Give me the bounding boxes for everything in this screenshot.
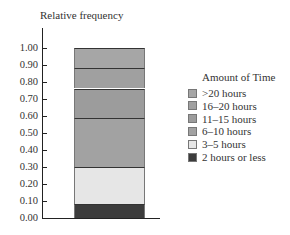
y-tick-mark bbox=[42, 48, 47, 49]
y-tick-mark bbox=[42, 133, 47, 134]
legend-item: 11–15 hours bbox=[188, 113, 256, 125]
legend-swatch-icon bbox=[188, 114, 197, 123]
y-axis-line bbox=[42, 28, 43, 219]
y-tick-label: 0.50 bbox=[2, 127, 38, 139]
legend-swatch-icon bbox=[188, 127, 197, 136]
legend-item: 6–10 hours bbox=[188, 125, 251, 137]
y-tick-mark bbox=[42, 82, 47, 83]
y-tick-label: 1.00 bbox=[2, 42, 38, 54]
y-tick-label: 0.80 bbox=[2, 76, 38, 88]
legend-swatch-icon bbox=[188, 89, 197, 98]
y-tick-label: 0.20 bbox=[2, 178, 38, 190]
y-tick-label: 0.60 bbox=[2, 110, 38, 122]
legend-label: >20 hours bbox=[202, 87, 246, 99]
legend-swatch-icon bbox=[188, 101, 197, 110]
legend-item: 2 hours or less bbox=[188, 151, 266, 163]
legend-item: 16–20 hours bbox=[188, 100, 257, 112]
legend-label: 16–20 hours bbox=[202, 100, 257, 112]
bar-segment bbox=[74, 167, 145, 204]
y-tick-mark bbox=[42, 116, 47, 117]
y-tick-label: 0.30 bbox=[2, 161, 38, 173]
y-tick-label: 0.10 bbox=[2, 195, 38, 207]
y-tick-mark bbox=[42, 65, 47, 66]
bar-segment bbox=[74, 118, 145, 167]
legend-label: 6–10 hours bbox=[202, 125, 251, 137]
stacked-bar bbox=[74, 48, 145, 218]
legend-swatch-icon bbox=[188, 153, 197, 162]
y-tick-mark bbox=[42, 99, 47, 100]
y-tick-label: 0.70 bbox=[2, 93, 38, 105]
y-tick-label: 0.90 bbox=[2, 59, 38, 71]
bar-segment bbox=[74, 48, 145, 68]
y-tick-mark bbox=[42, 218, 47, 219]
bar-segment bbox=[74, 204, 145, 218]
y-tick-mark bbox=[42, 184, 47, 185]
y-axis-label: Relative frequency bbox=[40, 9, 123, 21]
legend-swatch-icon bbox=[188, 140, 197, 149]
y-tick-label: 0.00 bbox=[2, 212, 38, 224]
y-tick-mark bbox=[42, 167, 47, 168]
x-axis-line bbox=[42, 218, 160, 219]
y-tick-label: 0.40 bbox=[2, 144, 38, 156]
legend-label: 11–15 hours bbox=[202, 113, 256, 125]
legend-title: Amount of Time bbox=[202, 71, 275, 83]
legend-item: >20 hours bbox=[188, 87, 246, 99]
legend-item: 3–5 hours bbox=[188, 138, 246, 150]
y-tick-mark bbox=[42, 201, 47, 202]
legend-label: 2 hours or less bbox=[202, 151, 266, 163]
bar-segment bbox=[74, 89, 145, 118]
bar-segment bbox=[74, 68, 145, 88]
y-tick-mark bbox=[42, 150, 47, 151]
legend-label: 3–5 hours bbox=[202, 138, 246, 150]
